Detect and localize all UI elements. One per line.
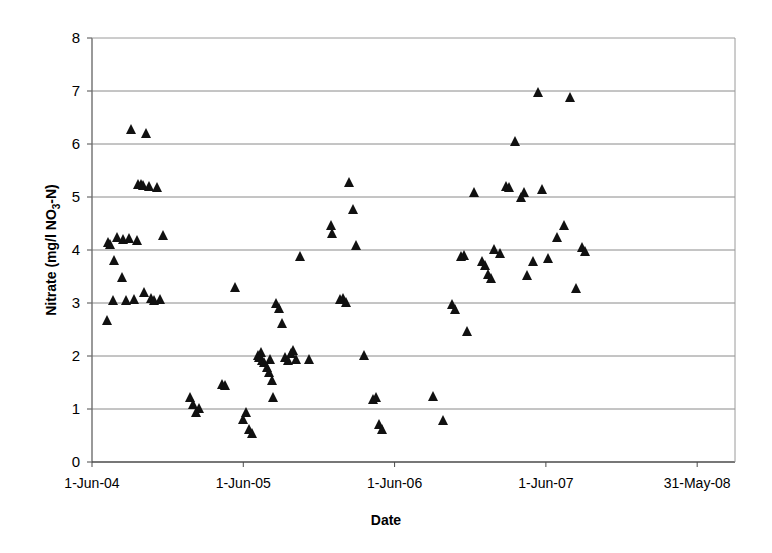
- data-point-marker: [438, 415, 448, 425]
- data-point-marker: [495, 248, 505, 258]
- y-axis-title-subscript: 3: [51, 204, 62, 210]
- data-point-marker: [109, 255, 119, 265]
- y-tick-label: 1: [54, 401, 80, 416]
- y-tick-label: 7: [54, 83, 80, 98]
- data-point-marker: [129, 294, 139, 304]
- x-tick-label: 1-Jun-06: [335, 476, 455, 490]
- data-point-marker: [117, 272, 127, 282]
- data-point-marker: [537, 184, 547, 194]
- y-tick-label: 8: [54, 30, 80, 45]
- data-point-marker: [559, 220, 569, 230]
- data-point-marker: [247, 428, 257, 438]
- data-point-marker: [341, 297, 351, 307]
- data-point-marker: [230, 282, 240, 292]
- data-point-marker: [295, 251, 305, 261]
- data-point-marker: [194, 403, 204, 413]
- data-point-marker: [126, 124, 136, 134]
- data-point-marker: [552, 232, 562, 242]
- data-point-marker: [580, 246, 590, 256]
- data-point-marker: [533, 87, 543, 97]
- y-axis-title-pre: Nitrate (mg/l NO: [43, 209, 59, 316]
- data-point-marker: [528, 256, 538, 266]
- data-point-marker: [132, 235, 142, 245]
- data-point-marker: [102, 315, 112, 325]
- nitrate-scatter-chart: 012345678 1-Jun-041-Jun-051-Jun-061-Jun-…: [0, 0, 772, 553]
- data-point-marker: [351, 240, 361, 250]
- data-point-marker: [510, 136, 520, 146]
- data-point-marker: [519, 187, 529, 197]
- data-point-marker: [344, 177, 354, 187]
- y-tick-label: 0: [54, 454, 80, 469]
- data-point-marker: [469, 187, 479, 197]
- data-point-marker: [377, 424, 387, 434]
- x-tick-label: 1-Jun-05: [183, 476, 303, 490]
- data-point-marker: [267, 375, 277, 385]
- y-axis-title-post: -N): [43, 184, 59, 203]
- data-point-marker: [274, 303, 284, 313]
- data-point-marker: [108, 295, 118, 305]
- data-point-marker: [241, 407, 251, 417]
- x-tick-label: 1-Jun-04: [32, 476, 152, 490]
- data-point-marker: [428, 391, 438, 401]
- data-point-marker: [327, 228, 337, 238]
- y-axis-title: Nitrate (mg/l NO3-N): [40, 120, 62, 380]
- data-point-marker: [291, 354, 301, 364]
- x-tick-label: 1-Jun-07: [486, 476, 606, 490]
- data-point-marker: [565, 92, 575, 102]
- x-tick-label: 31-May-08: [637, 476, 757, 490]
- data-point-marker: [348, 204, 358, 214]
- x-axis-title: Date: [0, 512, 772, 528]
- data-point-marker: [504, 182, 514, 192]
- data-point-marker: [304, 354, 314, 364]
- data-point-marker: [371, 392, 381, 402]
- data-point-marker: [155, 294, 165, 304]
- data-point-marker: [359, 350, 369, 360]
- data-point-marker: [158, 230, 168, 240]
- data-point-marker: [450, 304, 460, 314]
- data-point-marker: [268, 392, 278, 402]
- data-point-marker: [571, 283, 581, 293]
- data-point-marker: [141, 128, 151, 138]
- data-point-marker: [220, 380, 230, 390]
- data-point-marker: [277, 318, 287, 328]
- data-point-marker: [462, 326, 472, 336]
- data-point-marker: [152, 182, 162, 192]
- data-point-marker: [486, 273, 496, 283]
- data-point-marker: [265, 354, 275, 364]
- data-point-marker: [459, 250, 469, 260]
- data-point-marker: [522, 270, 532, 280]
- data-point-marker: [543, 253, 553, 263]
